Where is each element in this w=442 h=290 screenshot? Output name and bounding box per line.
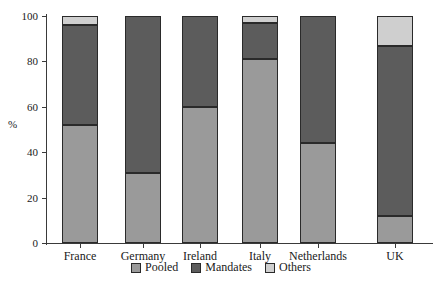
x-axis-tick [318,244,319,248]
plot-area [46,16,432,243]
x-axis-tick [395,244,396,248]
bar-segment-germany-mandates [125,16,161,173]
legend-label: Pooled [145,261,178,274]
y-axis-title: % [8,119,17,130]
bar-segment-france-mandates [62,25,98,125]
y-axis-tick-label: 20 [0,193,38,204]
x-axis-tick [80,244,81,248]
bar-segment-france-others [62,16,98,25]
legend-item-others[interactable]: Others [265,261,311,274]
legend-item-pooled[interactable]: Pooled [131,261,178,274]
bar-segment-uk-mandates [377,46,413,216]
bar-segment-uk-others [377,16,413,46]
y-axis-tick-label: 80 [0,56,38,67]
bar-segment-ireland-mandates [182,16,218,107]
bar-uk [377,16,413,243]
legend-swatch-pooled-icon [131,263,141,273]
y-axis-tick-label: 100 [0,11,38,22]
legend-swatch-others-icon [265,263,275,273]
legend-swatch-mandates-icon [191,263,201,273]
x-axis-tick [200,244,201,248]
bar-italy [242,16,278,243]
x-axis-line [46,243,433,244]
bar-segment-uk-pooled [377,216,413,243]
bar-ireland [182,16,218,243]
bar-france [62,16,98,243]
chart-legend: PooledMandatesOthers [0,261,442,274]
bar-segment-italy-mandates [242,23,278,59]
y-axis-tick-label: 0 [0,238,38,249]
y-axis-tick [42,243,47,244]
bar-segment-france-pooled [62,125,98,243]
legend-label: Mandates [205,261,252,274]
y-axis-tick-label: 40 [0,147,38,158]
bar-segment-italy-pooled [242,59,278,243]
stacked-bar-chart: % 020406080100 FranceGermanyIrelandItaly… [0,0,442,290]
bar-netherlands [300,16,336,243]
x-axis-tick [260,244,261,248]
bar-germany [125,16,161,243]
bar-segment-italy-others [242,16,278,23]
x-axis-tick [143,244,144,248]
y-axis-tick-label: 60 [0,102,38,113]
bar-segment-ireland-pooled [182,107,218,243]
bar-segment-germany-pooled [125,173,161,243]
legend-label: Others [279,261,311,274]
legend-item-mandates[interactable]: Mandates [191,261,252,274]
bar-segment-netherlands-mandates [300,16,336,143]
bar-segment-netherlands-pooled [300,143,336,243]
